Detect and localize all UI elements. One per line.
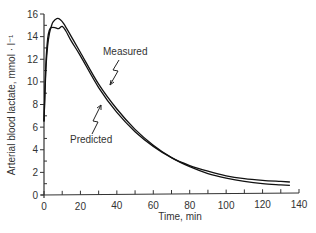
- x-tick-label: 100: [218, 200, 235, 211]
- x-tick-label: 120: [254, 199, 271, 210]
- series-predicted: [44, 26, 290, 182]
- x-axis-line: [41, 193, 299, 195]
- arrow-predicted: [92, 105, 101, 134]
- lactate-chart: 0246810121416020406080100120140 Measured…: [0, 0, 316, 233]
- x-tick-label: 40: [111, 200, 123, 211]
- y-tick-label: 6: [32, 122, 38, 133]
- y-axis-title: Arterial blood lactate, mmol · l⁻¹: [6, 34, 17, 175]
- y-tick-label: 8: [32, 99, 38, 110]
- axes: 0246810121416020406080100120140: [27, 9, 308, 213]
- y-tick-label: 2: [32, 167, 38, 178]
- annotation-predicted: Predicted: [70, 134, 112, 145]
- x-tick-label: 60: [148, 200, 160, 211]
- series-lines: [44, 18, 290, 185]
- x-axis-title: Time, min: [158, 211, 202, 222]
- series-measured: [44, 18, 290, 185]
- x-tick-label: 140: [291, 199, 308, 210]
- arrow-measured: [110, 60, 119, 85]
- y-tick-label: 0: [32, 190, 38, 201]
- x-tick-label: 80: [184, 200, 196, 211]
- y-tick-label: 14: [27, 31, 39, 42]
- y-tick-label: 16: [27, 9, 39, 20]
- x-tick-label: 0: [41, 201, 47, 212]
- y-tick-label: 4: [32, 144, 38, 155]
- y-tick-label: 12: [27, 54, 39, 65]
- annotation-measured: Measured: [103, 46, 147, 57]
- x-tick-label: 20: [75, 201, 87, 212]
- y-tick-label: 10: [27, 76, 39, 87]
